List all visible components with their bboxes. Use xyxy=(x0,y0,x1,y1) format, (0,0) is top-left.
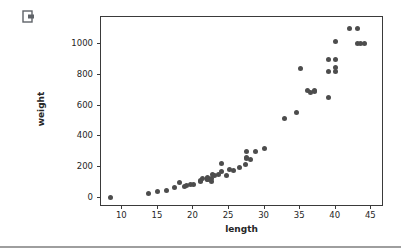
y-axis-tick xyxy=(97,74,100,75)
x-axis-tick xyxy=(370,206,371,209)
scatter-point xyxy=(248,157,253,162)
scatter-point xyxy=(262,146,267,151)
x-axis-tick xyxy=(264,206,265,209)
x-axis-tick-label: 45 xyxy=(355,210,385,220)
scatter-points-layer xyxy=(101,17,382,205)
scatter-point xyxy=(294,110,299,115)
scatter-point xyxy=(146,191,151,196)
scatter-point xyxy=(305,88,310,93)
scatter-point xyxy=(155,189,160,194)
y-axis-tick xyxy=(97,105,100,106)
x-axis-tick-label: 30 xyxy=(249,210,279,220)
scatter-point xyxy=(219,161,224,166)
scatter-point xyxy=(231,168,236,173)
y-axis-tick-label: 600 xyxy=(63,100,93,110)
x-axis-tick-label: 40 xyxy=(320,210,350,220)
cell-divider xyxy=(0,246,401,248)
scatter-point xyxy=(333,39,338,44)
y-axis-tick-label: 800 xyxy=(63,69,93,79)
scatter-point xyxy=(164,188,169,193)
scatter-point xyxy=(108,195,113,200)
y-axis-tick-label: 200 xyxy=(63,161,93,171)
y-axis-tick xyxy=(97,166,100,167)
x-axis-tick-label: 35 xyxy=(284,210,314,220)
y-axis-tick xyxy=(97,135,100,136)
scatter-point xyxy=(298,66,303,71)
scatter-point xyxy=(362,41,367,46)
x-axis-tick-label: 20 xyxy=(177,210,207,220)
x-axis-tick xyxy=(121,206,122,209)
y-axis-tick xyxy=(97,197,100,198)
scatter-point xyxy=(333,57,338,62)
x-axis-tick-label: 15 xyxy=(142,210,172,220)
x-axis-tick xyxy=(157,206,158,209)
x-axis-tick xyxy=(228,206,229,209)
scatter-point xyxy=(253,149,258,154)
x-axis-tick xyxy=(299,206,300,209)
scatter-point xyxy=(326,69,331,74)
x-axis-tick xyxy=(192,206,193,209)
y-axis-tick-label: 400 xyxy=(63,130,93,140)
x-axis-tick-label: 10 xyxy=(106,210,136,220)
y-axis-tick-label: 0 xyxy=(63,192,93,202)
notebook-output-cell: 101520253035404502004006008001000 length… xyxy=(0,0,401,252)
y-axis-label: weight xyxy=(36,59,46,159)
scatter-plot-figure: 101520253035404502004006008001000 length… xyxy=(0,0,401,246)
x-axis-tick-label: 25 xyxy=(213,210,243,220)
scatter-point xyxy=(312,89,317,94)
scatter-point xyxy=(326,57,331,62)
x-axis-tick xyxy=(335,206,336,209)
y-axis-tick xyxy=(97,43,100,44)
scatter-point xyxy=(237,165,242,170)
plot-axes-frame xyxy=(100,16,383,206)
y-axis-tick-label: 1000 xyxy=(63,38,93,48)
scatter-point xyxy=(224,173,229,178)
scatter-point xyxy=(282,116,287,121)
scatter-point xyxy=(191,182,196,187)
scatter-point xyxy=(347,26,352,31)
scatter-point xyxy=(244,149,249,154)
scatter-point xyxy=(333,69,338,74)
x-axis-label: length xyxy=(100,224,383,234)
scatter-point xyxy=(326,95,331,100)
scatter-point xyxy=(355,26,360,31)
scatter-point xyxy=(172,185,177,190)
scatter-point xyxy=(243,162,248,167)
scatter-point xyxy=(177,180,182,185)
